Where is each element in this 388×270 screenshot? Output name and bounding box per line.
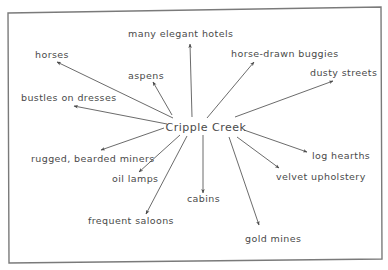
web-diagram: Cripple Creek horses many elegant hotels… — [0, 0, 388, 270]
node-label-cabins: cabins — [187, 193, 220, 204]
node-label-velvet-upholstery: velvet upholstery — [276, 171, 366, 182]
arrow-to-velvet-upholstery — [237, 137, 279, 168]
arrow-to-rugged-bearded-miners — [101, 128, 164, 150]
node-label-horse-drawn-buggies: horse-drawn buggies — [231, 48, 339, 59]
node-label-dusty-streets: dusty streets — [310, 67, 377, 78]
arrow-to-dusty-streets — [235, 81, 333, 117]
node-label-horses: horses — [35, 49, 69, 60]
node-label-rugged-bearded-miners: rugged, bearded miners — [31, 153, 155, 164]
node-label-bustles-on-dresses: bustles on dresses — [21, 92, 117, 103]
arrow-to-horse-drawn-buggies — [207, 62, 254, 118]
node-label-log-hearths: log hearths — [312, 150, 370, 161]
arrow-to-many-elegant-hotels — [190, 44, 192, 117]
node-label-oil-lamps: oil lamps — [112, 173, 158, 184]
node-label-aspens: aspens — [128, 70, 164, 81]
center-node-label: Cripple Creek — [166, 121, 247, 134]
diagram-frame — [8, 7, 382, 263]
node-label-many-elegant-hotels: many elegant hotels — [128, 28, 233, 39]
node-label-frequent-saloons: frequent saloons — [88, 215, 174, 226]
node-label-gold-mines: gold mines — [245, 233, 301, 244]
